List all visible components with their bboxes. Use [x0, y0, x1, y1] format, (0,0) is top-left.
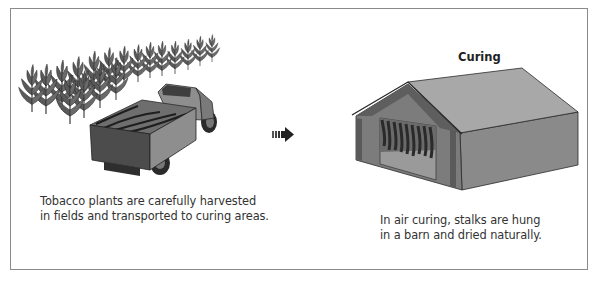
curing-caption-line-2: in a barn and dried naturally. — [380, 228, 542, 243]
curing-title: Curing — [458, 50, 501, 64]
harvesting-caption-line-2: in fields and transported to curing area… — [40, 209, 269, 224]
harvesting-caption: Tobacco plants are carefully harvested i… — [40, 194, 269, 224]
curing-caption-line-1: In air curing, stalks are hung — [380, 213, 542, 228]
curing-barn — [352, 68, 578, 190]
truck — [90, 84, 217, 176]
harvesting-caption-line-1: Tobacco plants are carefully harvested — [40, 194, 269, 209]
arrow-right-icon — [272, 127, 294, 142]
curing-caption: In air curing, stalks are hung in a barn… — [380, 213, 542, 243]
